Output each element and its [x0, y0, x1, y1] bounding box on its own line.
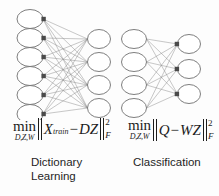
- norm-right-bars-2: [203, 119, 207, 141]
- norm-subscript-1: F: [105, 131, 111, 140]
- norm-left-bars-2: [153, 119, 157, 141]
- term-dz: DZ: [79, 121, 98, 137]
- networks-svg: [0, 0, 219, 120]
- network-edge: [43, 57, 88, 108]
- node-connector-marker: [41, 74, 45, 78]
- node-connector-marker: [175, 67, 179, 71]
- classification-formula: min D,Z,W Q−WZ 2 F: [128, 118, 213, 141]
- dictionary-learning-caption: Dictionary Learning: [31, 155, 82, 183]
- network-node: [17, 67, 43, 86]
- node-connector-marker: [41, 55, 45, 59]
- norm-superscript-1: 2: [105, 118, 111, 127]
- network-node: [88, 99, 111, 118]
- network-node: [178, 85, 201, 104]
- dictionary-learning-formula: min D,Z,W Xtrain−DZ 2 F: [13, 118, 111, 143]
- network-edge: [147, 69, 178, 108]
- min-operator-1: min D,Z,W: [13, 119, 36, 142]
- network-edge: [43, 19, 88, 62]
- network-node: [17, 86, 43, 105]
- min-label-1: min: [13, 119, 36, 134]
- node-connector-marker: [41, 17, 45, 21]
- edges-group: [43, 19, 178, 114]
- network-node: [17, 29, 43, 48]
- min-subscript-2: D,Z,W: [130, 133, 149, 141]
- norm-left-bars-1: [38, 118, 42, 140]
- node-connector-marker: [175, 42, 179, 46]
- network-edge: [43, 85, 88, 114]
- formulas-row: min D,Z,W Xtrain−DZ 2 F min D,Z,W Q−WZ: [0, 118, 219, 152]
- node-connector-marker: [41, 36, 45, 40]
- norm-expression-2: Q−WZ 2 F: [153, 119, 214, 141]
- norm-body-1: Xtrain−DZ: [42, 118, 100, 143]
- network-node: [122, 30, 147, 49]
- network-node: [178, 60, 201, 79]
- term-x-subscript: train: [53, 127, 69, 136]
- minus-operator-2: −: [170, 122, 180, 138]
- network-node: [122, 53, 147, 72]
- network-edge: [43, 19, 88, 108]
- norm-expression-1: Xtrain−DZ 2 F: [38, 118, 111, 143]
- network-node: [88, 30, 111, 49]
- term-wz: WZ: [180, 122, 201, 138]
- node-connector-marker: [41, 112, 45, 116]
- network-edge: [147, 62, 178, 69]
- norm-indices-2: 2 F: [208, 119, 214, 141]
- min-operator-2: min D,Z,W: [128, 118, 151, 141]
- network-node: [178, 35, 201, 54]
- norm-indices-1: 2 F: [105, 118, 111, 140]
- term-x: X: [44, 121, 53, 137]
- network-node: [122, 76, 147, 95]
- network-node: [88, 53, 111, 72]
- network-node: [17, 48, 43, 67]
- norm-subscript-2: F: [208, 132, 214, 141]
- norm-superscript-2: 2: [208, 119, 214, 128]
- minus-operator-1: −: [68, 121, 78, 137]
- min-label-2: min: [128, 118, 151, 133]
- classification-caption: Classification: [133, 155, 201, 169]
- network-diagram-figure: min D,Z,W Xtrain−DZ 2 F min D,Z,W Q−WZ: [0, 0, 219, 196]
- network-edge: [147, 69, 178, 85]
- norm-right-bars-1: [100, 118, 104, 140]
- min-subscript-1: D,Z,W: [15, 134, 34, 142]
- network-node: [17, 10, 43, 29]
- node-connector-marker: [41, 93, 45, 97]
- network-edge: [43, 38, 88, 39]
- node-connector-marker: [175, 92, 179, 96]
- network-node: [122, 99, 147, 118]
- captions-row: Dictionary Learning Classification: [0, 155, 219, 196]
- network-node: [88, 76, 111, 95]
- term-q: Q: [159, 122, 170, 138]
- network-edge: [147, 44, 178, 108]
- network-edge: [43, 108, 88, 114]
- network-edge: [43, 38, 88, 108]
- norm-body-2: Q−WZ: [157, 119, 203, 141]
- network-edge: [147, 94, 178, 108]
